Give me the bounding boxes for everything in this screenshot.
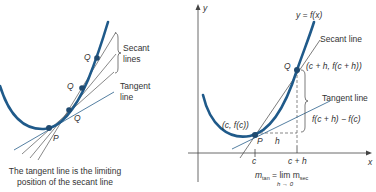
secant-line-label: Secant line [320,35,362,44]
p-label: P [53,134,59,143]
rise-brace [301,70,308,132]
q-low-label: Q [74,114,81,123]
point-q-top [94,55,100,61]
left-figure [0,22,121,160]
rise-label: f(c + h) − f(c) [312,115,361,124]
tangent-line-label: Tangent line [322,94,368,103]
secant-line-steep [38,32,116,160]
point-q-low [66,107,72,113]
q-coordinate-label: (c + h, f(c + h)) [306,62,362,71]
p-coordinate-label: (c, f(c)) [222,121,249,130]
secant-brace [115,33,121,73]
diagram-canvas [0,0,376,192]
h-label: h [275,137,280,146]
function-curve [203,22,314,137]
function-curve [0,22,108,129]
formula-tan-subscript: tan [262,175,270,181]
secant-lines-label-2: lines [123,55,140,64]
secant-line [240,40,320,158]
tick-c-plus-h-label: c + h [288,157,307,166]
formula-lim: = lim m [270,170,300,180]
tangent-line [14,92,114,150]
tangent-line-label: Tangent [120,82,150,91]
x-axis-arrow [366,151,372,156]
tangent-line-label-2: line [120,93,133,102]
secant-lines-label: Secant [123,44,149,53]
caption-line-1: The tangent line is the limiting [0,166,130,177]
point-p [46,125,52,131]
formula-limit-subscript: h → 0 [277,181,293,187]
formula-sec-subscript: sec [300,175,309,181]
q-label: Q [284,62,291,71]
caption-line-2: position of the secant line [0,177,130,188]
x-axis-label: x [368,158,372,167]
y-axis-label: y [203,4,207,13]
limit-formula: mtan = lim msec [255,170,308,181]
point-q-mid [79,85,85,91]
q-top-label: Q [84,53,91,62]
y-axis-arrow [196,4,201,10]
tick-c-label: c [252,157,256,166]
left-caption: The tangent line is the limiting positio… [0,166,130,188]
point-q [294,67,300,73]
p-label: P [257,137,263,146]
function-label: y = f(x) [296,11,322,20]
q-mid-label: Q [67,82,74,91]
